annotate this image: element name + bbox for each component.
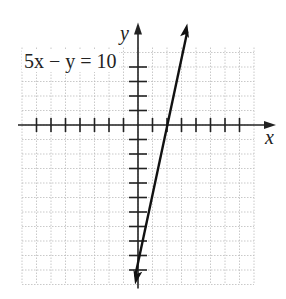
coordinate-plane: [0, 0, 286, 299]
x-axis-label: x: [265, 126, 274, 149]
y-axis-label: y: [120, 22, 129, 45]
equation-label: 5x − y = 10: [22, 50, 119, 72]
